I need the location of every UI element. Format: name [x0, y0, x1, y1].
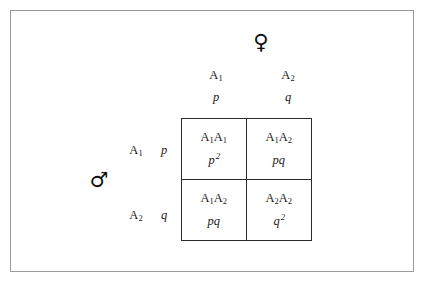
cell-genotype: A1A2 — [265, 131, 292, 144]
row-header-frequency-1: p — [155, 144, 173, 157]
column-header-frequency-1: p — [196, 91, 236, 104]
venus-symbol: ♀ — [249, 32, 273, 53]
cell-frequency: pq — [273, 154, 286, 167]
cell-frequency: pq — [208, 215, 221, 228]
column-header-frequency-2: q — [268, 91, 308, 104]
punnett-grid: A1A1 p2 A1A2 pq A1A2 pq A2A2 q2 — [181, 118, 312, 241]
column-header-allele-1: A1 — [196, 69, 236, 82]
column-header-allele-2: A2 — [268, 69, 308, 82]
punnett-cell-homozygous-recessive: A2A2 q2 — [247, 180, 312, 241]
cell-genotype: A2A2 — [265, 192, 292, 205]
punnett-cell-heterozygous-top: A1A2 pq — [247, 119, 312, 180]
cell-frequency: q2 — [274, 215, 285, 228]
row-header-allele-1: A1 — [123, 144, 149, 157]
cell-genotype: A1A1 — [200, 131, 227, 144]
punnett-cell-homozygous-dominant: A1A1 p2 — [182, 119, 247, 180]
cell-frequency: p2 — [209, 154, 220, 167]
punnett-square-figure: ♀ ♂ A1 p A2 q A1 p A2 q A1A1 p2 A1A2 pq … — [0, 0, 424, 287]
punnett-cell-heterozygous-bottom: A1A2 pq — [182, 180, 247, 241]
row-header-frequency-2: q — [155, 209, 173, 222]
cell-genotype: A1A2 — [200, 192, 227, 205]
row-header-allele-2: A2 — [123, 209, 149, 222]
mars-symbol: ♂ — [87, 170, 111, 191]
